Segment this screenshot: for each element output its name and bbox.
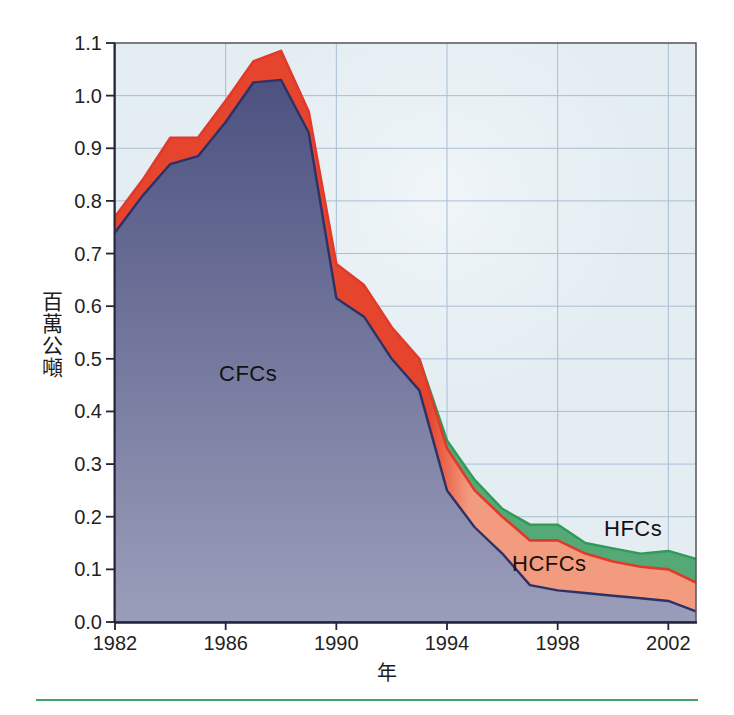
- y-tick-label: 0.4: [74, 400, 102, 422]
- x-tick-label: 1994: [425, 632, 470, 654]
- y-tick-label: 1.0: [74, 85, 102, 107]
- x-tick-label: 2002: [646, 632, 691, 654]
- y-tick-label: 1.1: [74, 32, 102, 54]
- x-axis-title: 年: [377, 657, 397, 686]
- y-tick-label: 0.1: [74, 558, 102, 580]
- y-tick-label: 0.5: [74, 348, 102, 370]
- y-tick-label: 0.8: [74, 190, 102, 212]
- y-tick-label: 0.7: [74, 243, 102, 265]
- x-tick-label: 1998: [535, 632, 580, 654]
- y-tick-label: 0.2: [74, 506, 102, 528]
- x-tick-label: 1982: [93, 632, 138, 654]
- y-tick-label: 0.0: [74, 611, 102, 633]
- x-tick-label: 1990: [314, 632, 359, 654]
- series-label-hcfcs: HCFCs: [512, 551, 587, 577]
- x-tick-label: 1986: [203, 632, 248, 654]
- y-axis-title: 百萬公噸: [40, 291, 61, 379]
- ozone-depleting-substances-chart: 0.00.10.20.30.40.50.60.70.80.91.01.11982…: [0, 0, 734, 715]
- y-tick-label: 0.9: [74, 137, 102, 159]
- y-tick-label: 0.6: [74, 295, 102, 317]
- chart-canvas: 0.00.10.20.30.40.50.60.70.80.91.01.11982…: [0, 0, 734, 715]
- series-label-cfcs: CFCs: [219, 361, 277, 387]
- y-tick-label: 0.3: [74, 453, 102, 475]
- bottom-divider-rule: [36, 699, 698, 701]
- series-label-hfcs: HFCs: [604, 516, 662, 542]
